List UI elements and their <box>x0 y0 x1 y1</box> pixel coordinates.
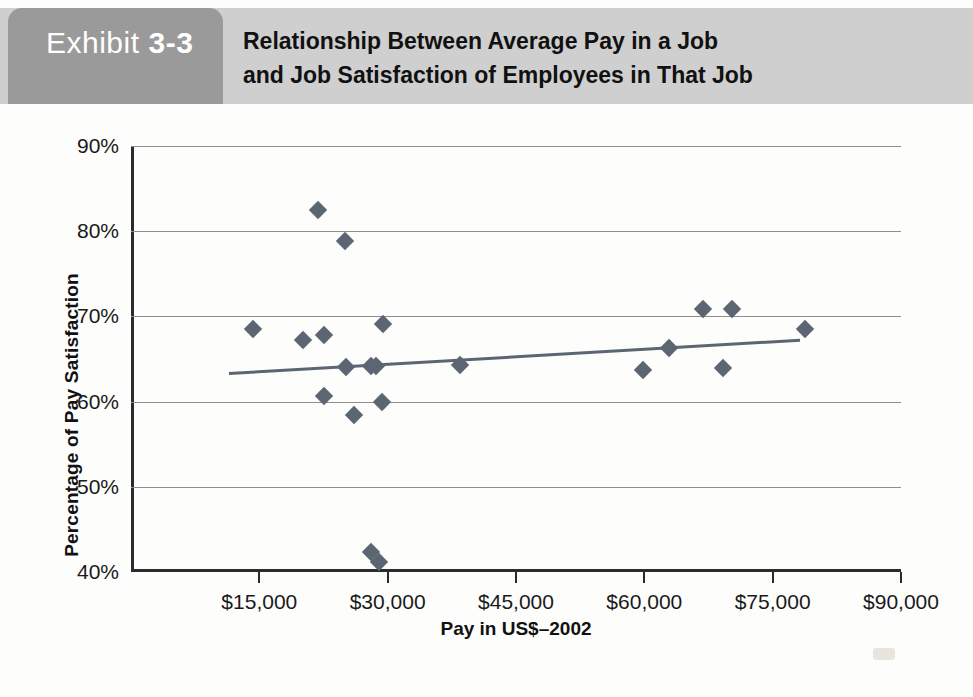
y-axis-title: Percentage of Pay Satisfaction <box>61 225 83 605</box>
chart-area: Percentage of Pay Satisfaction Pay in US… <box>0 104 973 697</box>
exhibit-title: Relationship Between Average Pay in a Jo… <box>243 24 943 92</box>
x-axis-tick-label: $90,000 <box>863 590 939 614</box>
x-axis-tick <box>515 572 517 583</box>
page-smudge <box>873 648 895 660</box>
exhibit-tab-text: Exhibit3-3 <box>46 26 193 60</box>
x-axis-title: Pay in US$–2002 <box>131 618 901 640</box>
gridline-horizontal <box>131 402 901 403</box>
x-axis-tick <box>258 572 260 583</box>
plot-frame <box>131 146 901 572</box>
exhibit-tab: Exhibit3-3 <box>8 8 223 104</box>
x-axis-tick <box>643 572 645 583</box>
y-axis-tick-label: 40% <box>77 560 119 584</box>
exhibit-label: Exhibit <box>46 26 140 59</box>
y-axis-tick-label: 60% <box>77 390 119 414</box>
x-axis-tick <box>387 572 389 583</box>
y-axis-tick-label: 80% <box>77 219 119 243</box>
x-axis-tick-label: $75,000 <box>735 590 811 614</box>
exhibit-title-line-2: and Job Satisfaction of Employees in Tha… <box>243 58 943 92</box>
gridline-horizontal <box>131 316 901 317</box>
y-axis-tick-label: 90% <box>77 134 119 158</box>
y-axis-tick-label: 50% <box>77 475 119 499</box>
y-axis-tick-label: 70% <box>77 304 119 328</box>
gridline-horizontal <box>131 487 901 488</box>
exhibit-title-line-1: Relationship Between Average Pay in a Jo… <box>243 28 718 54</box>
exhibit-header-band: Exhibit3-3 Relationship Between Average … <box>0 8 973 104</box>
exhibit-number: 3-3 <box>149 26 194 59</box>
x-axis-tick <box>900 572 902 583</box>
x-axis-tick-label: $30,000 <box>350 590 426 614</box>
gridline-horizontal <box>131 146 901 147</box>
plot-region: 40%50%60%70%80%90%$15,000$30,000$45,000$… <box>131 146 901 572</box>
x-axis-tick-label: $60,000 <box>606 590 682 614</box>
gridline-horizontal <box>131 231 901 232</box>
x-axis-tick-label: $45,000 <box>478 590 554 614</box>
exhibit-figure: Exhibit3-3 Relationship Between Average … <box>0 0 973 697</box>
x-axis-tick <box>772 572 774 583</box>
x-axis-tick-label: $15,000 <box>221 590 297 614</box>
